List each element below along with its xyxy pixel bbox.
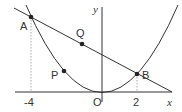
coordinate-diagram: A B Q P O -4 2 x y	[0, 0, 182, 112]
label-a: A	[20, 20, 28, 32]
point-b	[135, 72, 140, 77]
label-origin: O	[93, 96, 102, 108]
label-p: P	[51, 69, 58, 81]
label-q: Q	[76, 27, 85, 39]
point-a	[29, 15, 34, 20]
tick-label-neg4: -4	[24, 96, 34, 108]
label-b: B	[142, 69, 149, 81]
point-q	[80, 42, 85, 47]
point-p	[62, 69, 67, 74]
x-axis-label: x	[166, 96, 172, 108]
tick-label-2: 2	[133, 96, 139, 108]
y-axis-label: y	[92, 3, 98, 15]
